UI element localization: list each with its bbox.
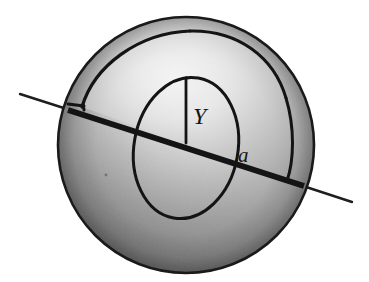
figure-canvas: Y a xyxy=(0,0,369,282)
sphere-diagram: Y a xyxy=(0,0,369,282)
label-a: a xyxy=(238,143,249,167)
cap-corner-stub xyxy=(83,104,84,110)
scan-speck xyxy=(105,174,108,177)
